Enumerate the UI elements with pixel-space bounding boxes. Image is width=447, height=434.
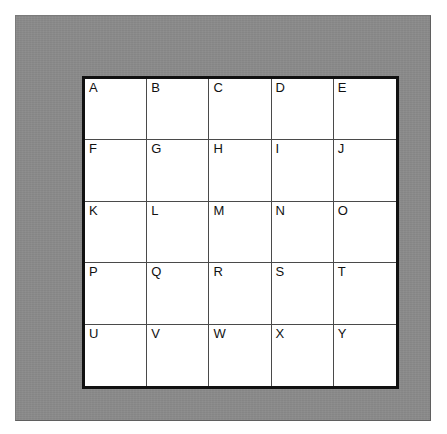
grid-cell-r3c5[interactable]: O	[334, 202, 396, 263]
cell-label: O	[338, 203, 348, 218]
cell-label: N	[276, 203, 286, 218]
cell-label: S	[276, 264, 285, 279]
cell-label: J	[338, 141, 345, 156]
cell-label: X	[276, 326, 285, 341]
grid-cell-r3c2[interactable]: L	[147, 202, 209, 263]
grid-cell-r1c3[interactable]: C	[209, 79, 271, 140]
grid-cell-r3c1[interactable]: K	[85, 202, 147, 263]
cell-label: R	[213, 264, 223, 279]
cell-label: M	[213, 203, 224, 218]
cell-label: H	[213, 141, 223, 156]
grid-cell-r2c1[interactable]: F	[85, 140, 147, 201]
grid-cell-r2c5[interactable]: J	[334, 140, 396, 201]
cell-label: D	[276, 80, 286, 95]
cell-label: W	[213, 326, 225, 341]
grid-cell-r5c5[interactable]: Y	[334, 325, 396, 386]
cell-label: Y	[338, 326, 347, 341]
cell-label: C	[213, 80, 223, 95]
grid-cell-r5c3[interactable]: W	[209, 325, 271, 386]
cell-label: I	[276, 141, 280, 156]
cell-label: B	[151, 80, 160, 95]
grid-cell-r1c1[interactable]: A	[85, 79, 147, 140]
grid-cell-r2c2[interactable]: G	[147, 140, 209, 201]
grid-cell-r4c5[interactable]: T	[334, 263, 396, 324]
cell-label: K	[89, 203, 98, 218]
grid-cell-r5c1[interactable]: U	[85, 325, 147, 386]
grid-cell-r3c3[interactable]: M	[209, 202, 271, 263]
cell-label: L	[151, 203, 158, 218]
cell-label: T	[338, 264, 346, 279]
grid-cell-r5c4[interactable]: X	[272, 325, 334, 386]
cell-label: Q	[151, 264, 161, 279]
grid-cell-r1c2[interactable]: B	[147, 79, 209, 140]
letter-grid[interactable]: A B C D E F G H	[82, 76, 399, 389]
grid-cell-r4c3[interactable]: R	[209, 263, 271, 324]
cell-label: F	[89, 141, 97, 156]
cell-label: V	[151, 326, 160, 341]
gray-mat-border: A B C D E F G H	[15, 15, 431, 421]
cell-label: P	[89, 264, 98, 279]
grid-cell-r3c4[interactable]: N	[272, 202, 334, 263]
grid-cell-r4c4[interactable]: S	[272, 263, 334, 324]
grid-cell-r2c3[interactable]: H	[209, 140, 271, 201]
cell-label: G	[151, 141, 161, 156]
cell-label: U	[89, 326, 99, 341]
page-canvas: A B C D E F G H	[0, 0, 447, 434]
cell-label: E	[338, 80, 347, 95]
grid-cell-r4c1[interactable]: P	[85, 263, 147, 324]
grid-cell-r5c2[interactable]: V	[147, 325, 209, 386]
cell-label: A	[89, 80, 98, 95]
grid-cell-r4c2[interactable]: Q	[147, 263, 209, 324]
grid-cell-r2c4[interactable]: I	[272, 140, 334, 201]
grid-cell-r1c5[interactable]: E	[334, 79, 396, 140]
grid-cell-r1c4[interactable]: D	[272, 79, 334, 140]
